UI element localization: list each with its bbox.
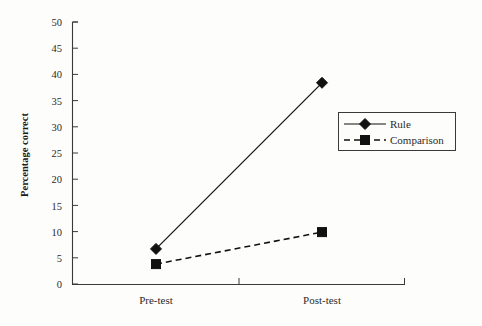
line-chart: Percentage correct 50 45 40 35 30 25 20 … — [0, 0, 482, 326]
y-tick-label-45: 45 — [52, 43, 63, 54]
y-tick-label-0: 0 — [57, 279, 62, 290]
series-line-rule — [156, 83, 322, 249]
x-category-label-pre-test: Pre-test — [139, 294, 173, 306]
data-point-comparison-post-test — [318, 228, 327, 237]
y-tick-label-25: 25 — [52, 148, 63, 159]
y-axis-title: Percentage correct — [19, 113, 30, 197]
y-tick-label-5: 5 — [57, 253, 62, 264]
series-line-comparison — [156, 232, 322, 264]
legend-label-comparison: Comparison — [390, 134, 444, 146]
y-tick-label-20: 20 — [52, 174, 63, 185]
y-tick-label-30: 30 — [52, 122, 63, 133]
legend-marker-square-icon — [361, 136, 370, 145]
y-tick-label-50: 50 — [52, 17, 63, 28]
y-tick-label-40: 40 — [52, 69, 63, 80]
x-category-label-post-test: Post-test — [303, 294, 341, 306]
chart-figure: Percentage correct 50 45 40 35 30 25 20 … — [0, 0, 482, 326]
y-tick-label-15: 15 — [52, 201, 63, 212]
data-point-comparison-pre-test — [152, 260, 161, 269]
legend-label-rule: Rule — [390, 118, 411, 130]
chart-legend: Rule Comparison — [339, 113, 456, 151]
y-tick-label-10: 10 — [52, 227, 63, 238]
y-tick-label-35: 35 — [52, 96, 63, 107]
